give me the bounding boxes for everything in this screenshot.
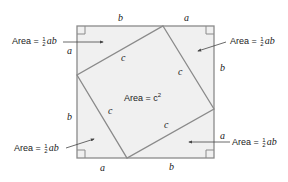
- denominator: 2: [262, 143, 265, 148]
- label-top-b: b: [118, 13, 123, 23]
- label-top-a: a: [184, 13, 189, 23]
- label-inner-c-right: c: [178, 67, 182, 77]
- label-left-b: b: [67, 112, 72, 122]
- label-inner-c-bottom: c: [164, 120, 168, 130]
- area-label-bottom-left: Area = 12ab: [14, 143, 59, 154]
- center-area-label: Area = c2: [124, 90, 161, 103]
- denominator: 2: [42, 42, 45, 47]
- area-suffix: ab: [267, 136, 277, 147]
- label-bottom-a: a: [100, 163, 105, 173]
- area-prefix: Area =: [232, 137, 259, 147]
- label-bottom-b: b: [169, 162, 174, 172]
- label-inner-c-top: c: [121, 53, 125, 63]
- label-right-b: b: [220, 63, 225, 73]
- fraction: 12: [260, 37, 263, 47]
- area-label-top-left: Area = 12ab: [12, 36, 57, 47]
- area-suffix: ab: [47, 35, 57, 46]
- area-prefix: Area =: [230, 36, 257, 46]
- area-prefix: Area =: [14, 143, 41, 153]
- fraction: 12: [42, 37, 45, 47]
- area-label-top-right: Area = 12ab: [230, 36, 275, 47]
- area-label-bottom-right: Area = 12ab: [232, 137, 277, 148]
- area-prefix: Area =: [12, 36, 39, 46]
- label-right-a: a: [220, 131, 225, 141]
- label-inner-c-left: c: [108, 106, 112, 116]
- denominator: 2: [44, 149, 47, 154]
- fraction: 12: [262, 138, 265, 148]
- center-area-text: Area = c: [124, 93, 158, 103]
- center-area-exponent: 2: [158, 92, 161, 98]
- area-suffix: ab: [265, 35, 275, 46]
- fraction: 12: [44, 144, 47, 154]
- label-left-a: a: [67, 46, 72, 56]
- area-suffix: ab: [49, 142, 59, 153]
- denominator: 2: [260, 42, 263, 47]
